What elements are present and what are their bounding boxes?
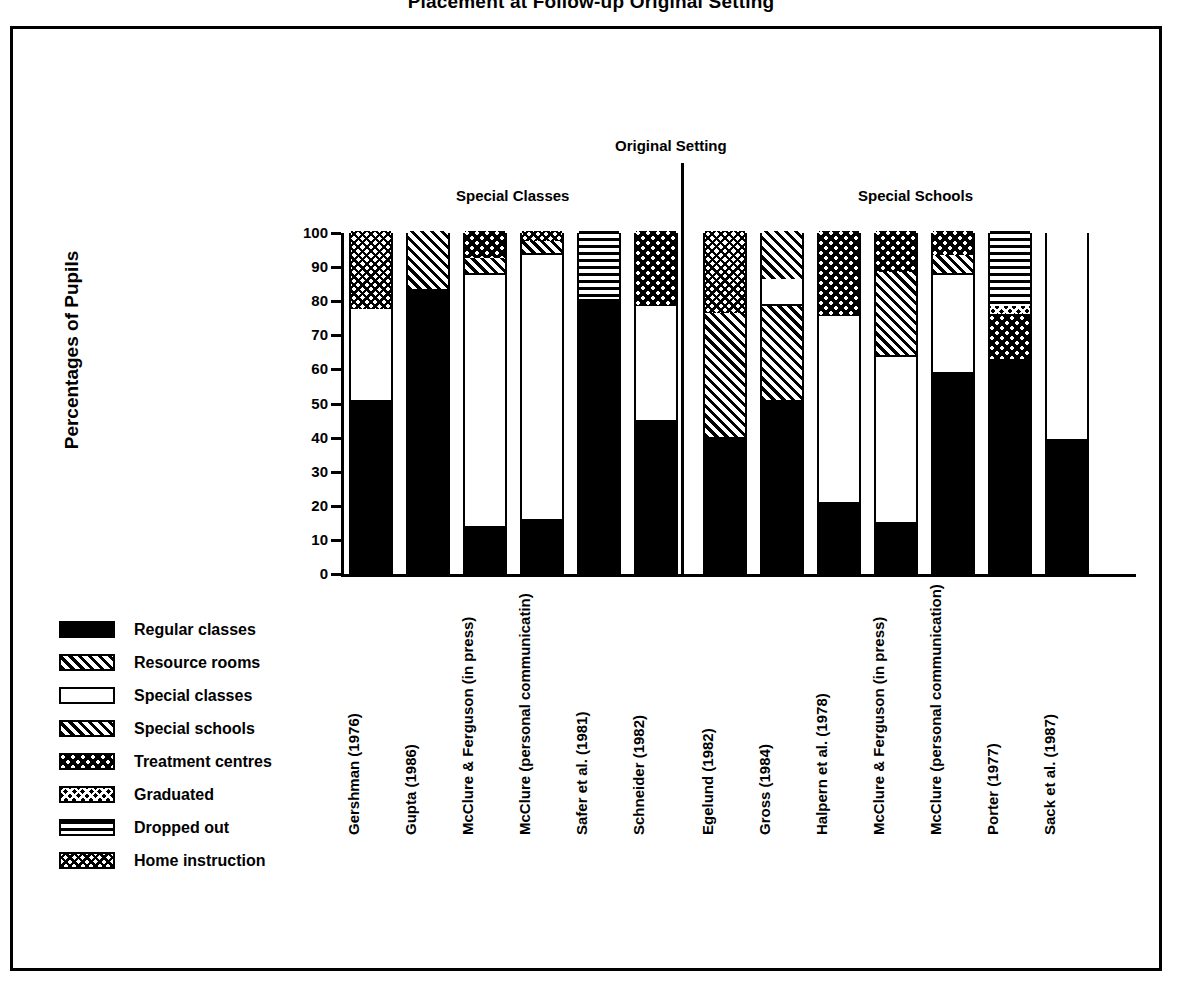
x-axis-label-text: Halpern et al. (1978) bbox=[814, 693, 829, 835]
bar-9 bbox=[817, 233, 861, 574]
x-axis-label: Porter (1977) bbox=[989, 585, 1011, 835]
legend-item-specialschools: Special schools bbox=[59, 712, 272, 745]
legend-item-specialclasses: Special classes bbox=[59, 679, 272, 712]
bar-segment-resource bbox=[705, 313, 745, 439]
bar-segment-regular bbox=[762, 402, 802, 573]
bar-segment-treatment bbox=[819, 231, 859, 316]
legend-item-home: Home instruction bbox=[59, 844, 272, 877]
bar-6 bbox=[634, 233, 678, 574]
bar-segment-treatment bbox=[465, 231, 505, 258]
bar-segment-specialclasses bbox=[876, 357, 916, 524]
legend-swatch-treatment-icon bbox=[59, 753, 115, 770]
bar-segment-specialschools bbox=[522, 241, 562, 255]
bar-segment-regular bbox=[636, 422, 676, 572]
x-axis-label: Sack et al. (1987) bbox=[1046, 585, 1068, 835]
bar-segment-resource bbox=[408, 231, 448, 289]
chart-frame: Percentages of Pupils Original Setting S… bbox=[10, 26, 1162, 971]
legend-label: Regular classes bbox=[134, 621, 256, 639]
y-tick-label: 10 bbox=[290, 532, 328, 547]
chart-title: Placement at Follow-up Original Setting bbox=[0, 0, 1182, 13]
bar-segment-specialschools bbox=[465, 258, 505, 275]
bar-5 bbox=[577, 233, 621, 574]
bar-segment-resource bbox=[876, 272, 916, 357]
bar-segment-dropped bbox=[579, 231, 619, 299]
original-setting-label: Original Setting bbox=[615, 137, 727, 154]
bar-segment-specialschools bbox=[933, 255, 973, 275]
bar-segment-resource bbox=[762, 306, 802, 401]
y-axis-title: Percentages of Pupils bbox=[61, 200, 83, 500]
bar-segment-specialclasses bbox=[522, 255, 562, 521]
legend-item-resource: Resource rooms bbox=[59, 646, 272, 679]
y-tick-mark bbox=[331, 300, 341, 303]
y-tick-mark bbox=[331, 334, 341, 337]
legend-swatch-regular-icon bbox=[59, 621, 115, 638]
x-axis-label-text: Porter (1977) bbox=[985, 743, 1000, 835]
legend-label: Special schools bbox=[134, 720, 255, 738]
bar-1 bbox=[349, 233, 393, 574]
x-axis-label-text: Gupta (1986) bbox=[403, 744, 418, 835]
bar-3 bbox=[463, 233, 507, 574]
y-tick-mark bbox=[331, 573, 341, 576]
legend-item-regular: Regular classes bbox=[59, 613, 272, 646]
y-tick-mark bbox=[331, 437, 341, 440]
x-axis-line bbox=[341, 574, 1136, 577]
legend-swatch-specialclasses-icon bbox=[59, 687, 115, 704]
x-axis-label-text: Gross (1984) bbox=[757, 744, 772, 835]
x-axis-label: Gershman (1976) bbox=[350, 585, 372, 835]
bar-12 bbox=[988, 233, 1032, 574]
y-tick-label: 80 bbox=[290, 293, 328, 308]
legend-item-dropped: Dropped out bbox=[59, 811, 272, 844]
x-axis-label: Halpern et al. (1978) bbox=[818, 585, 840, 835]
bar-segment-home bbox=[522, 231, 562, 241]
bar-segment-specialschools bbox=[762, 231, 802, 279]
y-tick-mark bbox=[331, 232, 341, 235]
y-tick-label: 70 bbox=[290, 327, 328, 342]
bar-segment-graduated bbox=[990, 306, 1030, 316]
y-tick-label: 20 bbox=[290, 498, 328, 513]
x-axis-label-text: McClure (personal communication) bbox=[928, 584, 943, 835]
y-tick-label: 40 bbox=[290, 430, 328, 445]
y-tick-label: 100 bbox=[290, 225, 328, 240]
bar-segment-regular bbox=[579, 299, 619, 572]
x-axis-label-text: Schneider (1982) bbox=[631, 715, 646, 835]
bar-segment-regular bbox=[351, 402, 391, 573]
legend-swatch-dropped-icon bbox=[59, 819, 115, 836]
y-tick-mark bbox=[331, 368, 341, 371]
legend-item-treatment: Treatment centres bbox=[59, 745, 272, 778]
legend-swatch-specialschools-icon bbox=[59, 720, 115, 737]
bar-segment-specialclasses bbox=[819, 316, 859, 504]
y-tick-label: 50 bbox=[290, 396, 328, 411]
bar-4 bbox=[520, 233, 564, 574]
x-axis-label-text: McClure & Ferguson (in press) bbox=[871, 617, 886, 835]
bar-segment-home bbox=[705, 231, 745, 313]
bar-13 bbox=[1045, 233, 1089, 574]
bar-segment-regular bbox=[705, 439, 745, 572]
x-axis-label: McClure & Ferguson (in press) bbox=[464, 585, 486, 835]
y-tick-mark bbox=[331, 266, 341, 269]
x-axis-label: Schneider (1982) bbox=[635, 585, 657, 835]
bar-segment-regular bbox=[876, 524, 916, 572]
y-tick-mark bbox=[331, 539, 341, 542]
bar-segment-treatment bbox=[933, 231, 973, 255]
bar-segment-regular bbox=[408, 289, 448, 572]
bar-segment-specialclasses bbox=[636, 306, 676, 422]
y-tick-mark bbox=[331, 403, 341, 406]
y-tick-label: 30 bbox=[290, 464, 328, 479]
y-tick-label: 0 bbox=[290, 566, 328, 581]
bar-segment-regular bbox=[1047, 439, 1087, 572]
bar-2 bbox=[406, 233, 450, 574]
x-axis-label: Gross (1984) bbox=[761, 585, 783, 835]
legend-label: Dropped out bbox=[134, 819, 229, 837]
x-axis-label: McClure (personal communicatin) bbox=[521, 585, 543, 835]
x-axis-label-text: McClure & Ferguson (in press) bbox=[460, 617, 475, 835]
x-axis-label: McClure (personal communication) bbox=[932, 585, 954, 835]
bar-segment-regular bbox=[990, 361, 1030, 572]
chart-legend: Regular classesResource roomsSpecial cla… bbox=[59, 613, 272, 877]
legend-label: Resource rooms bbox=[134, 654, 260, 672]
bar-segment-regular bbox=[522, 521, 562, 572]
x-axis-label-text: Gershman (1976) bbox=[346, 713, 361, 835]
bar-segment-dropped bbox=[990, 231, 1030, 306]
bar-segment-treatment bbox=[636, 231, 676, 306]
y-tick-mark bbox=[331, 471, 341, 474]
bar-segment-specialclasses bbox=[1047, 231, 1087, 439]
